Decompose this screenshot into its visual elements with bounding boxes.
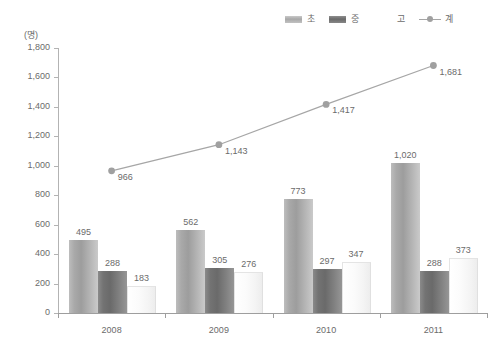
legend-swatch-bar-light-icon	[285, 16, 302, 23]
y-axis-tick-label: 1,800	[4, 43, 50, 52]
y-axis-tick-label: 400	[4, 249, 50, 258]
line-point-2011[interactable]	[430, 62, 437, 69]
y-axis-tick-label: 800	[4, 190, 50, 199]
y-axis-tick-label: 0	[4, 308, 50, 317]
x-axis-label-2008: 2008	[72, 326, 152, 335]
legend-item-jung[interactable]: 중	[329, 15, 359, 24]
y-axis-tick-label: 1,400	[4, 102, 50, 111]
x-axis-tick	[380, 313, 381, 318]
chart-container: 초 중 고 계 (명) 1,8001,6001,4001,2001,000800…	[0, 0, 501, 358]
x-axis-label-2010: 2010	[286, 326, 366, 335]
legend-item-go[interactable]: 고	[373, 15, 405, 24]
x-axis-tick	[487, 313, 488, 318]
line-value-label-2011: 1,681	[439, 68, 462, 77]
y-axis-tick-label: 1,000	[4, 161, 50, 170]
line-value-label-2010: 1,417	[332, 106, 355, 115]
y-axis-unit-label: (명)	[24, 28, 38, 41]
chart-legend: 초 중 고 계	[285, 12, 467, 26]
y-axis-tick-label: 1,200	[4, 131, 50, 140]
legend-label-gye: 계	[445, 15, 453, 24]
y-axis-tick-label: 200	[4, 279, 50, 288]
line-point-2008[interactable]	[108, 167, 115, 174]
x-axis-tick	[165, 313, 166, 318]
x-axis-tick	[273, 313, 274, 318]
line-value-label-2008: 966	[118, 173, 133, 182]
legend-item-cho[interactable]: 초	[285, 15, 315, 24]
y-axis-tick-label: 600	[4, 220, 50, 229]
legend-swatch-bar-white-icon	[373, 15, 392, 24]
legend-label-go: 고	[397, 15, 405, 24]
line-point-2010[interactable]	[323, 101, 330, 108]
y-axis-tick-label: 1,600	[4, 72, 50, 81]
legend-swatch-bar-dark-icon	[329, 16, 346, 23]
plot-area: 1,8001,6001,4001,2001,0008006004002000 4…	[58, 48, 487, 313]
x-axis-label-2009: 2009	[179, 326, 259, 335]
line-value-label-2009: 1,143	[225, 147, 248, 156]
legend-line-marker-icon	[419, 15, 441, 23]
x-axis-label-2011: 2011	[393, 326, 473, 335]
legend-item-gye[interactable]: 계	[419, 15, 453, 24]
legend-label-jung: 중	[351, 15, 359, 24]
legend-label-cho: 초	[307, 15, 315, 24]
line-point-2009[interactable]	[216, 141, 223, 148]
x-axis-tick	[58, 313, 59, 318]
